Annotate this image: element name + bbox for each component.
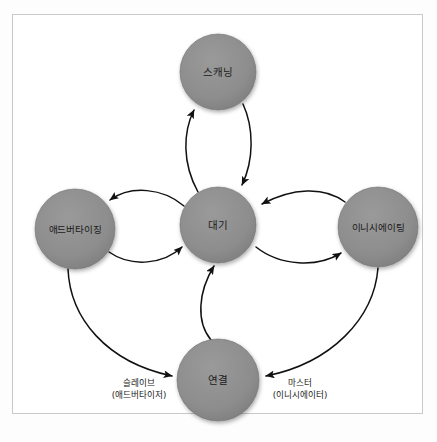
node-scanning[interactable]: 스캐닝 xyxy=(180,34,256,110)
edge-standby-to-initiating xyxy=(256,247,341,263)
edge-connection-to-standby xyxy=(201,266,214,340)
edge-initiating-to-standby xyxy=(262,191,345,204)
node-standby-label: 대기 xyxy=(208,219,228,231)
role-label-master-line1: 마스터 xyxy=(288,378,312,388)
role-label-master-line2: (이니시에이터) xyxy=(273,390,328,400)
edge-advertising-to-standby xyxy=(109,247,182,262)
state-diagram: 스캐닝 애드버타이징 대기 이니시에이팅 연결 슬레이브 xyxy=(0,0,437,442)
node-initiating[interactable]: 이니시에이팅 xyxy=(338,187,418,267)
edge-advertising-to-connection xyxy=(68,269,172,376)
node-advertising[interactable]: 애드버타이징 xyxy=(35,189,115,269)
role-label-slave: 슬레이브 (애드버타이저) xyxy=(112,378,167,400)
figure-root: 스캐닝 애드버타이징 대기 이니시에이팅 연결 슬레이브 xyxy=(0,0,437,442)
node-connection[interactable]: 연결 xyxy=(177,339,259,421)
role-label-master: 마스터 (이니시에이터) xyxy=(273,378,328,400)
role-label-slave-line2: (애드버타이저) xyxy=(112,390,167,400)
edge-initiating-to-connection xyxy=(266,268,378,376)
edge-scanning-to-standby xyxy=(242,104,251,185)
node-scanning-label: 스캐닝 xyxy=(203,66,232,78)
node-initiating-label: 이니시에이팅 xyxy=(352,222,405,233)
edge-standby-to-scanning xyxy=(186,110,198,192)
node-connection-label: 연결 xyxy=(208,374,228,386)
nodes-layer: 스캐닝 애드버타이징 대기 이니시에이팅 연결 xyxy=(35,34,418,421)
node-advertising-label: 애드버타이징 xyxy=(49,224,102,235)
role-label-slave-line1: 슬레이브 xyxy=(123,378,155,388)
edge-standby-to-advertising xyxy=(110,190,184,206)
node-standby[interactable]: 대기 xyxy=(180,187,256,263)
